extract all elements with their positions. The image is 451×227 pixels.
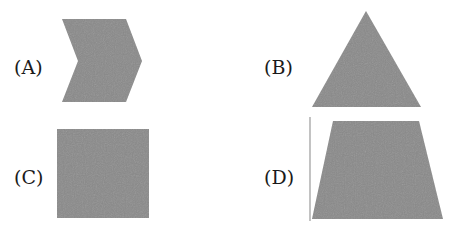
square-shape-c [57, 129, 149, 218]
trapezoid-shape-d [312, 121, 443, 219]
option-label-b: (B) [264, 58, 293, 77]
chevron-shape-a [62, 19, 142, 102]
option-label-a: (A) [14, 58, 43, 77]
figure-options: (A) (B) (C) (D) [0, 0, 451, 227]
shapes-layer [0, 0, 451, 227]
option-label-d: (D) [264, 168, 294, 187]
triangle-shape-b [312, 11, 421, 107]
option-label-c: (C) [14, 168, 43, 187]
